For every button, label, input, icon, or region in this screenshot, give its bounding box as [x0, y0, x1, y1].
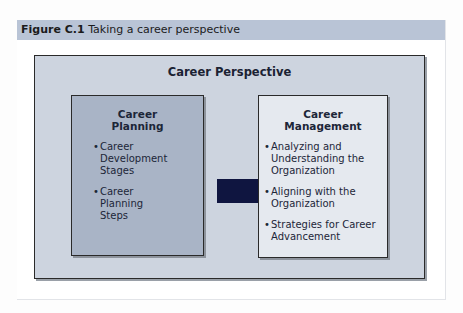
figure-header: Figure C.1 Taking a career perspective: [17, 20, 445, 40]
bullet-icon: •: [264, 141, 270, 153]
career-planning-list: •Career Development Stages •Career Plann…: [72, 141, 203, 222]
list-item: •Career Development Stages: [72, 141, 180, 177]
career-planning-title: Career Planning: [72, 108, 203, 132]
list-item: •Analyzing and Understanding the Organiz…: [259, 141, 387, 177]
career-planning-box: Career Planning •Career Development Stag…: [71, 95, 204, 256]
career-management-list: •Analyzing and Understanding the Organiz…: [259, 141, 387, 243]
career-management-title: Career Management: [259, 108, 387, 132]
diagram-title: Career Perspective: [35, 65, 424, 79]
bullet-icon: •: [93, 186, 99, 198]
bullet-icon: •: [264, 186, 270, 198]
figure-caption: Taking a career perspective: [88, 23, 240, 36]
bullet-icon: •: [264, 219, 270, 231]
bullet-icon: •: [93, 141, 99, 153]
list-item-text: Aligning with the Organization: [271, 186, 356, 209]
list-item-text: Strategies for Career Advancement: [271, 219, 376, 242]
list-item-text: Career Development Stages: [100, 141, 167, 176]
title-line: Management: [259, 120, 387, 132]
career-perspective-box: Career Perspective Career Planning •Care…: [34, 55, 425, 279]
title-line: Planning: [72, 120, 203, 132]
list-item-text: Career Planning Steps: [100, 186, 143, 221]
career-management-box: Career Management •Analyzing and Underst…: [258, 95, 388, 258]
list-item: •Aligning with the Organization: [259, 186, 387, 210]
figure-card: Figure C.1 Taking a career perspective C…: [17, 20, 446, 300]
figure-number: Figure C.1: [21, 23, 85, 36]
list-item-text: Analyzing and Understanding the Organiza…: [271, 141, 364, 176]
title-line: Career: [72, 108, 203, 120]
title-line: Career: [259, 108, 387, 120]
list-item: •Strategies for Career Advancement: [259, 219, 387, 243]
list-item: •Career Planning Steps: [72, 186, 170, 222]
